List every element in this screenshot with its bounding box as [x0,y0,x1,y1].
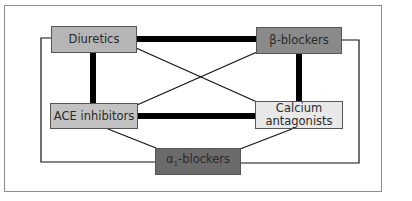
edge-diuretics-calcium [136,48,257,102]
node-diuretics-label: Diuretics [69,33,120,46]
node-diuretics: Diuretics [51,26,137,53]
node-ace-inhibitors: ACE inhibitors [50,103,138,129]
node-alpha1-blockers: α1-blockers [155,148,241,175]
node-calcium-label-line2: antagonists [265,115,332,128]
node-beta-blockers-label: β-blockers [269,34,328,47]
node-calcium-antagonists: Calcium antagonists [255,101,343,129]
alpha-suffix: -blockers [178,152,230,166]
node-beta-blockers: β-blockers [256,27,342,54]
node-ace-inhibitors-label: ACE inhibitors [54,110,134,123]
edge-diuretics-alpha-outer [41,38,155,162]
edge-ace-alpha [108,129,156,148]
edge-calcium-alpha [240,129,292,149]
edge-beta-ace [137,52,257,105]
node-alpha1-blockers-label: α1-blockers [166,153,230,171]
alpha-symbol: α [166,152,174,166]
